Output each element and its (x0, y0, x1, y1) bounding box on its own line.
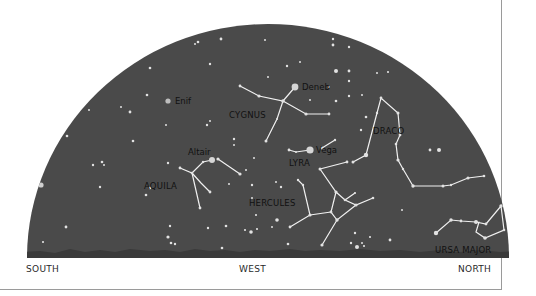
label-altair: Altair (188, 147, 211, 157)
label-enif: Enif (175, 96, 192, 106)
label-deneb: Deneb (302, 82, 330, 92)
label-hercules: HERCULES (249, 198, 296, 208)
label-aquila: AQUILA (144, 181, 177, 191)
direction-west: WEST (239, 264, 266, 274)
label-lyra: LYRA (289, 158, 310, 168)
label-ursa-major: URSA MAJOR (435, 245, 491, 255)
star-enif (165, 98, 170, 103)
star-altair (209, 157, 215, 163)
star-vega (306, 146, 313, 153)
sky-map: Enif Deneb Vega Altair CYGNUS LYRA DRACO… (0, 0, 536, 296)
direction-south: SOUTH (26, 264, 59, 274)
label-vega: Vega (316, 145, 337, 155)
label-cygnus: CYGNUS (229, 110, 266, 120)
sky-dome (27, 24, 509, 258)
label-draco: DRACO (373, 126, 405, 136)
star-deneb (292, 84, 299, 91)
direction-north: NORTH (458, 264, 491, 274)
